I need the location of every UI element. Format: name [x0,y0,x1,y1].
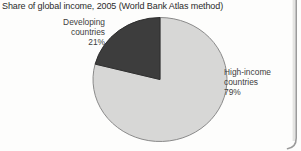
slice-label-line: countries [63,27,105,37]
slice-label-line: Developing [63,17,105,27]
slice-label-value: 21% [63,37,105,47]
slice-label-high-income: High-income countries 79% [224,67,271,97]
slice-label-line: High-income [224,67,271,77]
pie-slices [93,18,227,142]
slice-label-developing: Developing countries 21% [63,17,105,47]
slice-label-value: 79% [224,87,271,97]
figure-panel: Share of global income, 2005 (World Bank… [0,0,301,151]
slice-label-line: countries [224,77,271,87]
